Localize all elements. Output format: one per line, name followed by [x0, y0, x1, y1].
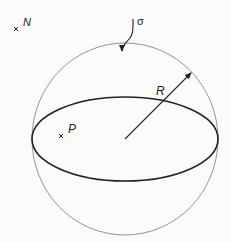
sigma-label: σ: [137, 15, 144, 27]
point-p-marker: [59, 134, 63, 138]
sphere-diagram: R N P σ: [0, 0, 231, 242]
point-n-label: N: [23, 16, 31, 28]
sigma-pointer-arrow: [122, 19, 133, 51]
point-p-label: P: [68, 122, 76, 136]
point-n-marker: [14, 27, 18, 31]
radius-label: R: [156, 84, 165, 98]
